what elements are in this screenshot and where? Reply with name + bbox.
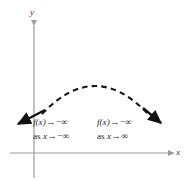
curve-right-solid-arrow (143, 108, 161, 123)
arrow-glyph-right-line2: → (111, 131, 121, 141)
function-notation-left: f(x) (33, 117, 46, 127)
graph-canvas (0, 0, 188, 181)
limit-annotation-right-line2: as x→∞ (97, 129, 132, 143)
arrow-glyph-left-line1: → (46, 117, 56, 127)
limit-value-right-line2: ∞ (121, 131, 128, 141)
limit-annotation-right: f(x)→−∞ as x→∞ (97, 115, 132, 144)
arrow-glyph-right-line1: → (110, 117, 120, 127)
limit-annotation-right-line1: f(x)→−∞ (97, 115, 132, 129)
limit-value-left-line1: −∞ (56, 117, 68, 127)
as-keyword-right: as (97, 131, 105, 141)
function-notation-right: f(x) (97, 117, 110, 127)
limit-annotation-left: f(x)→−∞ as x→−∞ (33, 115, 69, 144)
limit-value-right-line1: −∞ (120, 117, 132, 127)
x-axis-label: x (176, 148, 180, 157)
limit-annotation-left-line1: f(x)→−∞ (33, 115, 69, 129)
end-behavior-figure: y x f(x)→−∞ as x→−∞ f(x)→−∞ as x→∞ (0, 0, 188, 181)
arrow-glyph-left-line2: → (47, 131, 57, 141)
limit-annotation-left-line2: as x→−∞ (33, 129, 69, 143)
as-keyword-left: as (33, 131, 41, 141)
limit-value-left-line2: −∞ (57, 131, 69, 141)
curve-dashed-segment (42, 86, 148, 114)
y-axis-label: y (30, 8, 34, 17)
